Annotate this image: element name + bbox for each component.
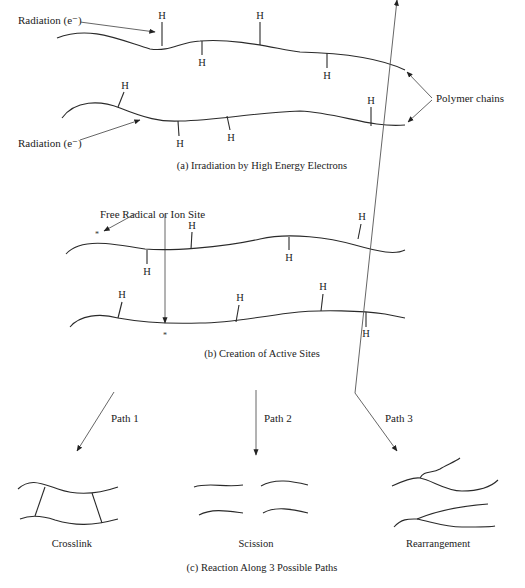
radiation-arrow-bottom xyxy=(80,120,140,140)
hydrogen-atom: H xyxy=(256,10,264,21)
h-bond xyxy=(321,294,323,311)
active-site-marker: * xyxy=(163,331,167,340)
hydrogen-atom: H xyxy=(319,281,327,292)
path-3-arrow xyxy=(355,0,397,393)
radiation-label-bottom: Radiation (e⁻) xyxy=(18,137,82,150)
hydrogen-atom: H xyxy=(198,57,206,68)
polymer-chains-label: Polymer chains xyxy=(436,92,504,104)
path-1-label: Path 1 xyxy=(111,412,139,424)
scission-label: Scission xyxy=(238,538,274,549)
radiation-label-top: Radiation (e⁻) xyxy=(18,14,82,27)
polymer-arrow-upper xyxy=(407,72,432,98)
hydrogen-atom: H xyxy=(143,266,151,277)
panel-c: Path 1 Crosslink Path 2 Scission Path 3 xyxy=(18,0,498,574)
path-3-label: Path 3 xyxy=(385,412,413,424)
h-bond xyxy=(118,92,124,107)
h-bond xyxy=(358,224,361,239)
caption-a: (a) Irradiation by High Energy Electrons xyxy=(177,160,347,172)
polymer-arrow-lower xyxy=(408,100,432,122)
panel-a: Radiation (e⁻) H H H H H H H H Radiation… xyxy=(18,10,504,172)
h-bond xyxy=(178,121,179,136)
polymer-chain-upper xyxy=(57,33,405,70)
site-label: Free Radical or Ion Site xyxy=(100,208,205,220)
hydrogen-atom: H xyxy=(367,95,375,106)
h-bond xyxy=(118,302,122,318)
polymer-chain-lower xyxy=(62,103,405,126)
h-bond xyxy=(227,116,230,130)
hydrogen-atom: H xyxy=(358,211,366,222)
crosslink-label: Crosslink xyxy=(52,538,93,549)
panel-b: Free Radical or Ion Site * * H H H H H H… xyxy=(66,208,405,360)
radiation-arrow-top xyxy=(80,22,155,32)
h-bond xyxy=(191,232,192,249)
hydrogen-atom: H xyxy=(121,80,129,91)
path-2-label: Path 2 xyxy=(264,412,292,424)
hydrogen-atom: H xyxy=(118,289,126,300)
hydrogen-atom: H xyxy=(227,132,235,143)
polymer-chain-upper xyxy=(66,236,405,254)
rearrangement-label: Rearrangement xyxy=(406,538,470,549)
hydrogen-atom: H xyxy=(158,10,166,21)
rearrangement-illustration xyxy=(392,458,498,527)
polymer-irradiation-diagram: Radiation (e⁻) H H H H H H H H Radiation… xyxy=(0,0,525,588)
hydrogen-atom: H xyxy=(362,328,370,339)
active-site-marker: * xyxy=(95,230,99,239)
hydrogen-atom: H xyxy=(176,138,184,149)
caption-c: (c) Reaction Along 3 Possible Paths xyxy=(187,562,338,574)
hydrogen-atom: H xyxy=(323,70,331,81)
scission-illustration xyxy=(194,481,308,515)
caption-b: (b) Creation of Active Sites xyxy=(204,348,319,360)
path-1-arrow xyxy=(77,392,114,451)
hydrogen-atom: H xyxy=(188,220,196,231)
hydrogen-atom: H xyxy=(236,292,244,303)
hydrogen-atom: H xyxy=(285,252,293,263)
h-bond xyxy=(236,305,239,322)
crosslink-illustration xyxy=(18,482,118,524)
